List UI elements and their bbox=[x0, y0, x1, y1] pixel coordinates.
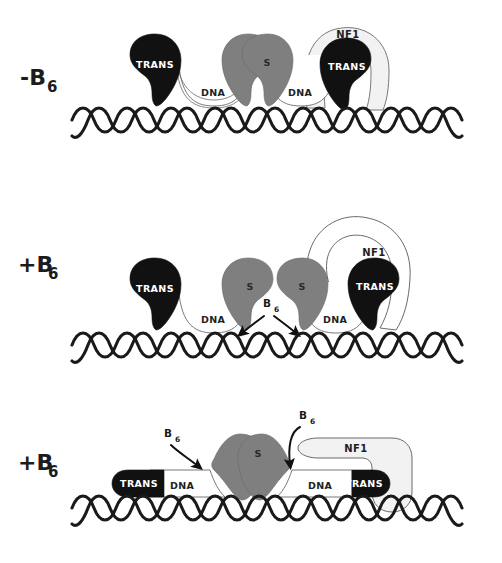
cond-base-top: B bbox=[29, 65, 46, 90]
b6-arrow-right-middle bbox=[274, 316, 296, 333]
dna-label-left-bottom: DNA bbox=[170, 480, 194, 491]
cond-sign-bottom: + bbox=[18, 450, 36, 475]
trans-label-right-bottom: TRANS bbox=[345, 478, 383, 489]
b6-arrow-left-bottom bbox=[171, 445, 198, 466]
dna-label-right-middle: DNA bbox=[323, 314, 347, 325]
condition-sign-base-top: -B bbox=[20, 65, 46, 90]
s-label-left-middle: S bbox=[247, 281, 254, 292]
dna-label-left-middle: DNA bbox=[201, 314, 225, 325]
dna-label-right-bottom: DNA bbox=[308, 480, 332, 491]
trans-label-left-bottom: TRANS bbox=[120, 478, 158, 489]
b6-annotation-base-middle: B bbox=[263, 297, 271, 309]
trans-shape-left-top bbox=[130, 34, 181, 106]
b6-annotation-subscript-middle: 6 bbox=[274, 305, 279, 314]
panel-middle: +B 6 NF1 DNA DNA TRANS S S TRANS B 6 bbox=[18, 217, 462, 363]
panel-bottom: +B 6 NF1 DNA DNA TRANS TRANS S S B 6 bbox=[18, 409, 462, 525]
s-label-right-bottom: S bbox=[255, 448, 262, 459]
diagram-canvas: -B 6 NF1 DNA DNA TRANS S S TRANS bbox=[0, 0, 502, 563]
trans-label-left-top: TRANS bbox=[136, 59, 174, 70]
condition-label-top: -B 6 bbox=[20, 65, 57, 96]
condition-label-bottom: +B 6 bbox=[18, 450, 58, 481]
b6-annotation-left-subscript-bottom: 6 bbox=[175, 435, 180, 444]
condition-subscript-bottom: 6 bbox=[48, 463, 58, 481]
figure-root: -B 6 NF1 DNA DNA TRANS S S TRANS bbox=[0, 0, 502, 563]
b6-annotation-right-base-bottom: B bbox=[299, 409, 307, 421]
nf1-label-bottom: NF1 bbox=[344, 443, 367, 454]
s-label-right-middle: S bbox=[299, 281, 306, 292]
s-label-right-top: S bbox=[264, 57, 271, 68]
trans-shape-right-top bbox=[320, 38, 371, 110]
trans-label-right-middle: TRANS bbox=[356, 281, 394, 292]
b6-annotation-left-base-bottom: B bbox=[164, 427, 172, 439]
panel-top: -B 6 NF1 DNA DNA TRANS S S TRANS bbox=[20, 28, 462, 138]
dna-label-left-top: DNA bbox=[201, 87, 225, 98]
trans-shape-left-middle bbox=[130, 258, 181, 330]
condition-subscript-top: 6 bbox=[47, 78, 57, 96]
trans-label-right-top: TRANS bbox=[328, 61, 366, 72]
b6-annotation-right-subscript-bottom: 6 bbox=[310, 417, 315, 426]
cond-sign-middle: + bbox=[18, 252, 36, 277]
trans-label-left-middle: TRANS bbox=[136, 283, 174, 294]
b6-annotation-left-bottom: B 6 bbox=[164, 427, 198, 466]
condition-subscript-middle: 6 bbox=[48, 265, 58, 283]
nf1-label-middle: NF1 bbox=[362, 247, 385, 258]
cond-sign-top: - bbox=[20, 65, 29, 90]
dna-label-right-top: DNA bbox=[288, 87, 312, 98]
condition-label-middle: +B 6 bbox=[18, 252, 58, 283]
